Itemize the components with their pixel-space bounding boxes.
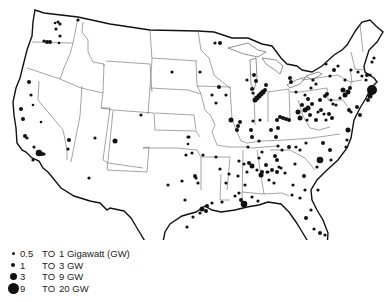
power-plant-dot <box>304 141 307 144</box>
power-plant-dot <box>257 139 260 142</box>
power-plant-dot <box>275 158 279 162</box>
power-plant-dot <box>318 98 322 102</box>
power-plant-dot <box>358 113 362 117</box>
power-plant-dot <box>325 92 329 96</box>
power-plant-dot <box>348 86 352 90</box>
power-plant-dot <box>336 64 339 67</box>
power-plant-dot <box>87 176 90 179</box>
power-plant-dot <box>204 209 208 213</box>
power-plant-dot <box>227 172 230 175</box>
power-plant-dot <box>252 73 256 77</box>
power-plant-dot <box>334 103 337 106</box>
power-plant-dot <box>291 183 294 186</box>
power-plant-dot <box>185 225 188 228</box>
power-plant-dot <box>289 80 293 84</box>
power-plant-dot <box>217 85 221 89</box>
power-plant-dot <box>309 86 312 89</box>
power-plant-dot <box>368 94 373 99</box>
power-plant-dot <box>237 159 240 162</box>
power-plant-dot <box>76 18 79 21</box>
power-plant-dot <box>191 215 194 218</box>
power-plant-dot <box>319 108 323 112</box>
power-plant-dot <box>180 179 183 182</box>
power-plant-dot <box>328 74 331 77</box>
power-plant-dot <box>265 170 268 173</box>
power-plant-dot <box>310 102 314 106</box>
power-plant-dot <box>263 88 267 92</box>
power-plant-dot <box>243 183 246 186</box>
power-plant-dot <box>58 22 61 25</box>
power-plant-dot <box>40 121 43 124</box>
power-plant-dot <box>238 120 242 124</box>
power-plant-dot <box>346 90 351 95</box>
power-plant-dot <box>345 138 348 141</box>
power-plant-dot <box>370 60 373 63</box>
power-plant-dot <box>42 152 45 155</box>
power-plant-dot <box>187 143 190 146</box>
power-plant-dot <box>218 41 222 45</box>
power-plant-dot <box>275 118 279 122</box>
power-plant-dot <box>214 155 217 158</box>
power-plant-dot <box>113 139 118 144</box>
power-plant-dot <box>276 144 279 147</box>
power-plant-dot <box>210 201 213 204</box>
power-plant-dot <box>54 27 57 30</box>
power-plant-dot <box>224 93 227 96</box>
power-plant-dot <box>328 148 332 152</box>
power-plant-dot <box>251 119 254 122</box>
power-plant-dot <box>314 82 317 85</box>
power-plant-dot <box>19 107 23 111</box>
power-plant-dot <box>242 162 245 165</box>
power-plant-dot <box>198 70 201 73</box>
power-plant-dot <box>237 191 240 194</box>
map-legend: 0.5 TO 1 Gigawatt (GW) 1 TO 3 GW 3 TO 9 … <box>6 248 130 294</box>
power-plant-dot <box>32 145 35 148</box>
power-plant-dot <box>276 126 280 130</box>
power-plant-dot <box>21 117 25 121</box>
power-plant-dot <box>316 188 319 191</box>
power-plant-dot <box>254 79 258 83</box>
power-plant-dot <box>31 158 34 161</box>
power-plant-dot <box>306 97 310 101</box>
power-plant-dot <box>298 196 301 199</box>
power-plant-dot <box>355 105 359 109</box>
us-power-plant-map <box>0 0 388 240</box>
power-plant-dot <box>287 118 291 122</box>
power-plant-dot <box>343 78 346 81</box>
power-plant-dot <box>317 157 324 164</box>
power-plant-dot <box>58 42 61 45</box>
power-plant-dot <box>256 199 259 202</box>
power-plant-dot <box>270 168 274 172</box>
power-plant-dot <box>166 183 169 186</box>
power-plant-dot <box>338 96 341 99</box>
power-plant-dot <box>311 78 314 81</box>
power-plant-dot <box>213 41 216 44</box>
medium-dot-icon <box>10 273 17 280</box>
power-plant-dot <box>273 154 277 158</box>
power-plant-dot <box>245 170 248 173</box>
power-plant-dot <box>293 162 296 165</box>
power-plant-dot <box>190 151 193 154</box>
power-plant-dot <box>218 167 221 170</box>
power-plant-dot <box>250 195 253 198</box>
power-plant-dot <box>200 207 205 212</box>
power-plant-dot <box>236 124 240 128</box>
power-plant-dot <box>303 188 306 191</box>
power-plant-dot <box>316 110 319 113</box>
power-plant-dot <box>170 70 173 73</box>
medium-small-dot-icon <box>11 263 15 267</box>
power-plant-dot <box>300 103 304 107</box>
power-plant-dot <box>290 193 293 196</box>
power-plant-dot <box>274 135 278 139</box>
power-plant-dot <box>224 181 227 184</box>
power-plant-dot <box>32 104 35 107</box>
power-plant-dot <box>250 164 255 169</box>
large-dot-icon <box>8 283 19 294</box>
power-plant-dot <box>329 98 332 101</box>
power-plant-dot <box>349 68 352 71</box>
power-plant-dot <box>321 141 325 145</box>
power-plant-dot <box>54 22 57 25</box>
power-plant-dot <box>341 88 346 93</box>
power-plant-dot <box>193 174 197 178</box>
us-outline <box>13 10 383 240</box>
